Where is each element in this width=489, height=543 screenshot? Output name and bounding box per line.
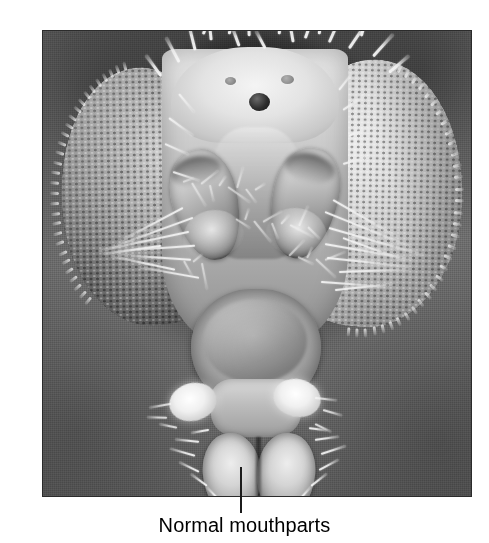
antenna-right-shadow [282,148,337,188]
sem-micrograph [43,31,471,496]
eye-fringe-bristle [455,188,464,191]
labellum-lobe-left [199,431,264,496]
eye-fringe-bristle [51,212,60,216]
labellum-seam [256,437,261,496]
ocellus-left [225,77,236,85]
bristle [247,31,250,36]
labellum [203,427,315,496]
eye-fringe-bristle [50,202,59,205]
ocellus-right [281,75,294,84]
leader-line [240,467,242,513]
clypeus-ridge [203,299,307,383]
eye-fringe-bristle [356,328,359,337]
figure-normal-mouthparts: Normal mouthparts [0,0,489,543]
ocellus-median [249,93,270,111]
caption-label: Normal mouthparts [0,511,489,539]
eye-fringe-bristle [50,192,59,195]
